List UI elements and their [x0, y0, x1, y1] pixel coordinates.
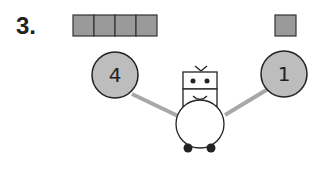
block — [94, 15, 115, 36]
robot-body — [176, 100, 224, 148]
left-arm — [132, 94, 178, 116]
block — [136, 15, 157, 36]
right-number-circle: 1 — [261, 51, 307, 97]
left-block-strip — [73, 15, 157, 36]
block — [73, 15, 94, 36]
number-bond-diagram: 4 1 — [0, 0, 335, 169]
eye-icon — [191, 79, 196, 84]
robot-head — [183, 72, 217, 89]
antenna-icon — [195, 66, 201, 71]
wheel-icon — [207, 144, 216, 153]
block — [115, 15, 136, 36]
robot-character — [176, 66, 224, 153]
right-block — [275, 15, 296, 36]
eye-icon — [205, 79, 210, 84]
wheel-icon — [184, 144, 193, 153]
left-number-circle: 4 — [92, 52, 138, 98]
right-arm — [225, 89, 268, 115]
right-circle-value: 1 — [278, 62, 291, 86]
left-circle-value: 4 — [109, 63, 122, 87]
